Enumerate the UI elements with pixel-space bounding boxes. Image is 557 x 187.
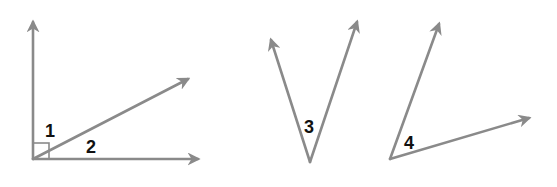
ray-diagonal xyxy=(33,79,188,159)
figure-1-right-angle: 1 2 xyxy=(33,22,198,159)
ray-left xyxy=(271,40,310,162)
ray-right xyxy=(310,22,357,162)
angle-label-3: 3 xyxy=(304,117,314,137)
ray-up xyxy=(390,24,439,159)
angle-label-2: 2 xyxy=(86,137,96,157)
angle-label-1: 1 xyxy=(45,121,55,141)
angle-label-4: 4 xyxy=(404,133,414,153)
figure-3-angle-4: 4 xyxy=(390,24,529,159)
angles-diagram: 1 2 3 4 xyxy=(0,0,557,187)
figure-2-angle-3: 3 xyxy=(271,22,357,162)
